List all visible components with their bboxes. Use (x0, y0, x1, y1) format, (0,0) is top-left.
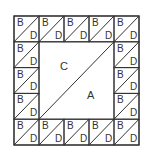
cell-label-d: D (105, 30, 112, 41)
cell-label-b: B (17, 94, 24, 105)
border-cell: BD (114, 119, 139, 145)
cell-label-d: D (30, 30, 37, 41)
border-cell: BD (114, 42, 139, 68)
center-label-c: C (60, 60, 68, 72)
cell-label-b: B (117, 120, 124, 131)
cell-label-d: D (130, 133, 137, 144)
cell-label-d: D (80, 133, 87, 144)
cell-label-d: D (130, 30, 137, 41)
cell-label-d: D (130, 107, 137, 118)
border-cell: BD (114, 68, 139, 94)
cell-label-b: B (92, 17, 99, 28)
cell-label-d: D (30, 107, 37, 118)
quilt-block-diagram: BDBDBDBDBDBDBDBDBDBDBDBDBDBDBDBD C A (0, 0, 150, 161)
center-square: C A (39, 42, 114, 119)
border-cell: BD (89, 16, 114, 42)
cell-label-d: D (130, 81, 137, 92)
border-cell: BD (14, 68, 39, 94)
border-cell: BD (64, 119, 89, 145)
cell-label-b: B (67, 17, 74, 28)
cell-label-b: B (67, 120, 74, 131)
cell-label-b: B (17, 69, 24, 80)
cell-label-b: B (17, 120, 24, 131)
border-cell: BD (39, 16, 64, 42)
cell-label-d: D (130, 56, 137, 67)
center-label-a: A (87, 89, 95, 101)
border-cell: BD (39, 119, 64, 145)
cell-label-d: D (80, 30, 87, 41)
diagram-canvas: BDBDBDBDBDBDBDBDBDBDBDBDBDBDBDBD C A (0, 0, 150, 161)
cell-label-b: B (17, 17, 24, 28)
border-cell: BD (64, 16, 89, 42)
cell-label-b: B (117, 17, 124, 28)
border-cell: BD (89, 119, 114, 145)
cell-label-b: B (117, 43, 124, 54)
cell-label-d: D (30, 56, 37, 67)
border-cell: BD (114, 93, 139, 119)
border-cell: BD (14, 42, 39, 68)
cell-label-d: D (30, 133, 37, 144)
cell-label-d: D (55, 133, 62, 144)
center-diagonal (39, 42, 114, 119)
border-cell: BD (14, 93, 39, 119)
cell-label-b: B (17, 43, 24, 54)
cell-label-b: B (92, 120, 99, 131)
cell-label-d: D (105, 133, 112, 144)
cell-label-b: B (117, 94, 124, 105)
border-cell: BD (14, 16, 39, 42)
cell-label-b: B (42, 17, 49, 28)
border-cell: BD (14, 119, 39, 145)
border-cell: BD (114, 16, 139, 42)
cell-label-d: D (55, 30, 62, 41)
cell-label-d: D (30, 81, 37, 92)
cell-label-b: B (42, 120, 49, 131)
cell-label-b: B (117, 69, 124, 80)
